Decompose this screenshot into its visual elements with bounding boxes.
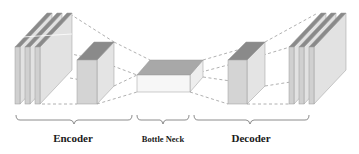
decoder-block: [228, 42, 265, 104]
encoder-input-slabs: [15, 13, 72, 104]
section-braces: [16, 115, 309, 124]
bottleneck-block: [137, 60, 203, 92]
decoder-label: Decoder: [231, 132, 270, 144]
decoder-brace: [194, 115, 309, 124]
bottleneck-label: Bottle Neck: [142, 134, 184, 144]
autoencoder-diagram: [0, 0, 359, 154]
decoder-output-slabs: [289, 13, 346, 104]
bottleneck-brace: [137, 115, 189, 124]
encoder-block: [77, 42, 114, 104]
encoder-label: Encoder: [53, 132, 93, 144]
encoder-brace: [16, 115, 132, 124]
